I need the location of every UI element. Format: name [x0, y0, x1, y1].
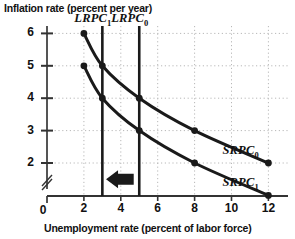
- x-tick-label: 10: [220, 201, 244, 215]
- series-label-SRPC1: SRPC1: [222, 175, 259, 192]
- data-point: [136, 95, 143, 102]
- phillips-curve-figure: Inflation rate (percent per year) Unempl…: [0, 0, 295, 239]
- data-point: [191, 127, 198, 134]
- data-point: [191, 160, 198, 167]
- data-point: [99, 95, 106, 102]
- y-tick-label: 5: [14, 58, 34, 72]
- data-point: [265, 192, 272, 199]
- series-label-SRPC0: SRPC0: [222, 143, 259, 160]
- data-point: [81, 30, 88, 37]
- x-tick-label: 12: [256, 201, 280, 215]
- srpc-curves: [84, 33, 269, 195]
- shift-arrow-annotation: [106, 170, 134, 188]
- x-tick-label: 0: [31, 203, 55, 217]
- y-tick-label: 6: [14, 25, 34, 39]
- x-tick-label: 8: [183, 201, 207, 215]
- x-tick-label: 2: [72, 201, 96, 215]
- data-point-markers: [81, 30, 272, 199]
- data-point: [136, 127, 143, 134]
- y-tick-label: 2: [14, 155, 34, 169]
- data-point: [265, 160, 272, 167]
- data-point: [99, 62, 106, 69]
- lrpc-label-0: LRPC0: [111, 11, 148, 28]
- y-tick-label: 3: [14, 123, 34, 137]
- data-point: [81, 62, 88, 69]
- shift-arrow-icon: [106, 170, 134, 188]
- x-tick-label: 4: [109, 201, 133, 215]
- lrpc-label-1: LRPC1: [74, 11, 111, 28]
- gridlines: [47, 26, 288, 196]
- x-tick-label: 6: [146, 201, 170, 215]
- y-tick-label: 4: [14, 90, 34, 104]
